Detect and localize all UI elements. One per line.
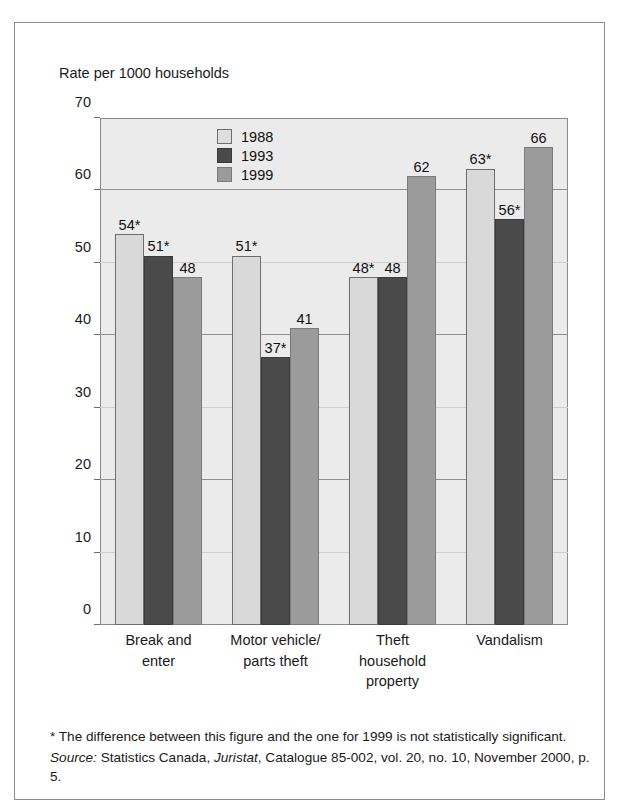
bar-value-label: 37* bbox=[265, 341, 287, 356]
x-category-line: Vandalism bbox=[451, 630, 568, 651]
source-publication: Juristat bbox=[214, 750, 258, 765]
footnote-asterisk-note: * The difference between this figure and… bbox=[50, 727, 590, 747]
legend-item-1999[interactable]: 1999 bbox=[217, 165, 337, 184]
y-tick-label-40: 40 bbox=[75, 311, 91, 327]
bar-value-label: 54* bbox=[119, 218, 141, 233]
bar[interactable]: 66 bbox=[524, 147, 553, 625]
bar[interactable]: 48 bbox=[173, 277, 202, 625]
x-category-line: parts theft bbox=[217, 651, 334, 672]
bar-value-label: 66 bbox=[530, 131, 546, 146]
bar-group: 54*51*48 bbox=[115, 118, 202, 625]
x-category-line: household bbox=[334, 651, 451, 672]
chart-legend: 198819931999 bbox=[217, 127, 337, 184]
legend-label-1988: 1988 bbox=[241, 129, 273, 145]
bar[interactable]: 63* bbox=[466, 169, 495, 625]
y-tick-label-10: 10 bbox=[75, 529, 91, 545]
bar-value-label: 48 bbox=[179, 261, 195, 276]
y-tick-mark-20 bbox=[94, 479, 100, 480]
bar-value-label: 51* bbox=[236, 239, 258, 254]
footnote-source: Source: Statistics Canada, Juristat, Cat… bbox=[50, 748, 590, 787]
y-tick-label-0: 0 bbox=[83, 601, 91, 617]
y-tick-mark-0 bbox=[94, 624, 100, 625]
x-category-line: enter bbox=[100, 651, 217, 672]
legend-swatch-1999 bbox=[217, 167, 232, 182]
y-tick-label-20: 20 bbox=[75, 456, 91, 472]
x-category-label: Break andenter bbox=[100, 630, 217, 671]
bar[interactable]: 51* bbox=[144, 256, 173, 625]
figure-footnote: * The difference between this figure and… bbox=[50, 727, 590, 788]
bar-value-label: 48 bbox=[384, 261, 400, 276]
y-tick-mark-30 bbox=[94, 407, 100, 408]
y-tick-label-50: 50 bbox=[75, 239, 91, 255]
x-category-line: Break and bbox=[100, 630, 217, 651]
bar[interactable]: 48 bbox=[378, 277, 407, 625]
source-label: Source: bbox=[50, 750, 97, 765]
bar[interactable]: 62 bbox=[407, 176, 436, 625]
y-tick-label-30: 30 bbox=[75, 384, 91, 400]
x-category-label: Motor vehicle/parts theft bbox=[217, 630, 334, 671]
y-tick-mark-60 bbox=[94, 189, 100, 190]
y-tick-label-70: 70 bbox=[75, 94, 91, 110]
figure-frame: Rate per 1000 households 010203040506070… bbox=[14, 22, 605, 800]
bar-group: 63*56*66 bbox=[466, 118, 553, 625]
y-tick-mark-40 bbox=[94, 334, 100, 335]
plot-wrapper: 010203040506070 54*51*4851*37*4148*48626… bbox=[100, 118, 568, 625]
y-tick-mark-50 bbox=[94, 262, 100, 263]
y-tick-mark-70 bbox=[94, 117, 100, 118]
bar-value-label: 41 bbox=[296, 312, 312, 327]
y-tick-mark-10 bbox=[94, 552, 100, 553]
legend-swatch-1993 bbox=[217, 148, 232, 163]
bar-group: 48*4862 bbox=[349, 118, 436, 625]
x-category-line: Motor vehicle/ bbox=[217, 630, 334, 651]
legend-item-1988[interactable]: 1988 bbox=[217, 127, 337, 146]
bar-value-label: 56* bbox=[499, 203, 521, 218]
y-tick-label-60: 60 bbox=[75, 166, 91, 182]
bar-value-label: 51* bbox=[148, 239, 170, 254]
x-category-label: Thefthouseholdproperty bbox=[334, 630, 451, 692]
bar[interactable]: 41 bbox=[290, 328, 319, 625]
bar[interactable]: 51* bbox=[232, 256, 261, 625]
bar[interactable]: 54* bbox=[115, 234, 144, 625]
bar[interactable]: 56* bbox=[495, 219, 524, 625]
x-category-label: Vandalism bbox=[451, 630, 568, 651]
x-category-line: Theft bbox=[334, 630, 451, 651]
bar[interactable]: 48* bbox=[349, 277, 378, 625]
legend-label-1999: 1999 bbox=[241, 167, 273, 183]
bar-value-label: 63* bbox=[470, 152, 492, 167]
bar-value-label: 48* bbox=[353, 261, 375, 276]
bar-value-label: 62 bbox=[413, 160, 429, 175]
x-category-line: property bbox=[334, 671, 451, 692]
bar-group: 51*37*41 bbox=[232, 118, 319, 625]
legend-item-1993[interactable]: 1993 bbox=[217, 146, 337, 165]
x-axis-categories: Break andenterMotor vehicle/parts theftT… bbox=[100, 630, 568, 710]
legend-label-1993: 1993 bbox=[241, 148, 273, 164]
legend-swatch-1988 bbox=[217, 129, 232, 144]
source-text-part1: Statistics Canada, bbox=[97, 750, 214, 765]
y-axis-title: Rate per 1000 households bbox=[59, 65, 229, 81]
bar[interactable]: 37* bbox=[261, 357, 290, 625]
